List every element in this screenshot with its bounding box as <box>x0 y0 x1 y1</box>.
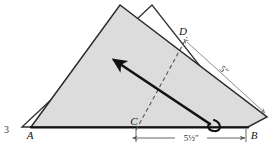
figure-container: 5ʺ 5½ʺ A B C D 3 <box>0 0 272 148</box>
vertex-label-c: C <box>130 115 138 127</box>
vertex-label-a: A <box>26 129 34 141</box>
page-number: 3 <box>4 124 9 135</box>
geometry-diagram: 5ʺ 5½ʺ A B C D 3 <box>0 0 272 148</box>
base-dimension-label: 5½ʺ <box>184 133 199 143</box>
vertex-label-d: D <box>178 25 187 37</box>
vertex-label-b: B <box>251 129 258 141</box>
